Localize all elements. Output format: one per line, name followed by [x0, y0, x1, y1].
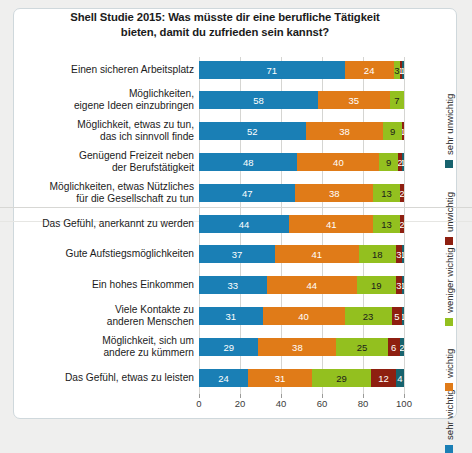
bar-segment-weniger-wichtig: 9 — [379, 153, 397, 171]
bar-segment-sehr-wichtig: 37 — [199, 245, 275, 263]
bar-value-label: 47 — [242, 188, 253, 199]
bar-segment-unwichtig: 6 — [388, 338, 400, 356]
bar-segment-sehr-unwichtig: 1 — [402, 153, 404, 171]
axis-tick-label: 80 — [358, 398, 369, 409]
category-label-line: Ein hohes Einkommen — [22, 279, 194, 291]
bar-row: 523891 — [199, 122, 404, 140]
bar-value-label: 9 — [390, 126, 395, 137]
bar-value-label: 58 — [253, 95, 264, 106]
stacked-bar-rows: 7124311583575238914840921473813244411323… — [199, 57, 404, 394]
bar-value-label: 38 — [292, 342, 303, 353]
category-label-line: Gute Aufstiegsmöglichkeiten — [22, 248, 194, 260]
bar-segment-weniger-wichtig: 7 — [390, 91, 404, 109]
bar-value-label: 24 — [364, 65, 375, 76]
bar-segment-sehr-wichtig: 48 — [199, 153, 297, 171]
axis-tick-label: 20 — [235, 398, 246, 409]
bar-value-label: 7 — [394, 95, 399, 106]
bar-value-label: 38 — [339, 126, 350, 137]
bar-value-label: 37 — [232, 249, 243, 260]
bar-value-label: 44 — [306, 280, 317, 291]
category-label-line: Genügend Freizeit neben — [22, 150, 194, 162]
legend-swatch-icon — [445, 237, 453, 245]
bar-segment-wichtig: 38 — [295, 184, 373, 202]
category-label: Möglichkeit, etwas zu tun,das ich sinnvo… — [22, 119, 194, 142]
bar-segment-sehr-unwichtig: 1 — [402, 307, 404, 325]
legend-swatch-icon — [445, 318, 453, 326]
category-label-line: Möglichkeiten, — [22, 88, 194, 100]
bar-segment-sehr-wichtig: 33 — [199, 276, 267, 294]
bar-value-label: 38 — [329, 188, 340, 199]
bar-value-label: 3 — [394, 65, 399, 76]
bar-segment-sehr-unwichtig: 1 — [402, 61, 404, 79]
bar-value-label: 35 — [348, 95, 359, 106]
bar-value-label: 4 — [397, 373, 402, 384]
axis-tick-label: 0 — [196, 398, 201, 409]
legend-label: sehr unwichtig — [444, 94, 455, 155]
chart-legend: sehr wichtigwichtigweniger wichtigunwich… — [424, 0, 472, 430]
bar-segment-wichtig: 38 — [306, 122, 384, 140]
bar-value-label: 2 — [400, 219, 404, 230]
category-label: Einen sicheren Arbeitsplatz — [22, 64, 194, 76]
bar-value-label: 13 — [381, 188, 392, 199]
bar-value-label: 41 — [326, 219, 337, 230]
bar-value-label: 5 — [394, 311, 399, 322]
bar-value-label: 41 — [312, 249, 323, 260]
legend-label: sehr wichtig — [444, 389, 455, 440]
bar-value-label: 52 — [247, 126, 258, 137]
bar-value-label: 2 — [400, 342, 404, 353]
category-label-line: anderen Menschen — [22, 316, 194, 328]
bar-row: 29382562 — [199, 338, 404, 356]
bar-value-label: 19 — [371, 280, 382, 291]
bar-value-label: 1 — [402, 65, 404, 76]
bar-value-label: 33 — [228, 280, 239, 291]
bar-value-label: 9 — [386, 157, 391, 168]
bar-row: 4738132 — [199, 184, 404, 202]
category-label: Viele Kontakte zuanderen Menschen — [22, 304, 194, 327]
bar-row: 243129124 — [199, 369, 404, 387]
category-label: Gute Aufstiegsmöglichkeiten — [22, 248, 194, 260]
plot-area: 7124311583575238914840921473813244411323… — [199, 57, 404, 394]
bar-value-label: 1 — [402, 249, 404, 260]
bar-row: 33441931 — [199, 276, 404, 294]
bar-value-label: 1 — [402, 311, 404, 322]
gridline-100 — [404, 57, 405, 394]
legend-swatch-icon — [445, 383, 453, 391]
category-label: Ein hohes Einkommen — [22, 279, 194, 291]
bar-segment-sehr-unwichtig: 1 — [402, 245, 404, 263]
category-label: Das Gefühl, etwas zu leisten — [22, 372, 194, 384]
bar-value-label: 31 — [275, 373, 286, 384]
bar-value-label: 18 — [372, 249, 383, 260]
category-label-line: Möglichkeit, etwas zu tun, — [22, 119, 194, 131]
bar-segment-sehr-wichtig: 24 — [199, 369, 248, 387]
bar-segment-wichtig: 41 — [289, 215, 373, 233]
bar-segment-weniger-wichtig: 13 — [373, 184, 400, 202]
bar-segment-sehr-wichtig: 58 — [199, 91, 318, 109]
axis-tick-label: 60 — [317, 398, 328, 409]
bar-segment-sehr-wichtig: 44 — [199, 215, 289, 233]
bar-segment-unwichtig: 1 — [402, 122, 404, 140]
legend-item-sehr-unwichtig[interactable]: sehr unwichtig — [424, 75, 472, 91]
category-label: Möglichkeiten,eigene Ideen einzubringen — [22, 88, 194, 111]
axis-tick-label: 40 — [276, 398, 287, 409]
legend-swatch-icon — [445, 160, 453, 168]
bar-segment-unwichtig: 2 — [400, 215, 404, 233]
legend-label: unwichtig — [444, 192, 455, 232]
bar-segment-sehr-wichtig: 29 — [199, 338, 258, 356]
bar-segment-wichtig: 41 — [275, 245, 359, 263]
bar-segment-weniger-wichtig: 9 — [383, 122, 401, 140]
bar-segment-sehr-wichtig: 47 — [199, 184, 295, 202]
chart-title: Shell Studie 2015: Was müsste dir eine b… — [55, 10, 395, 40]
bar-row: 4840921 — [199, 153, 404, 171]
bar-value-label: 1 — [402, 126, 404, 137]
bar-value-label: 31 — [225, 311, 236, 322]
category-label-line: Einen sicheren Arbeitsplatz — [22, 64, 194, 76]
bar-segment-sehr-wichtig: 52 — [199, 122, 306, 140]
bar-segment-sehr-wichtig: 71 — [199, 61, 345, 79]
category-axis-labels: Einen sicheren ArbeitsplatzMöglichkeiten… — [22, 57, 194, 394]
bar-value-label: 13 — [381, 219, 392, 230]
bar-row: 7124311 — [199, 61, 404, 79]
bar-segment-weniger-wichtig: 25 — [336, 338, 387, 356]
bar-value-label: 23 — [363, 311, 374, 322]
bar-value-label: 6 — [391, 342, 396, 353]
bar-segment-weniger-wichtig: 19 — [357, 276, 396, 294]
